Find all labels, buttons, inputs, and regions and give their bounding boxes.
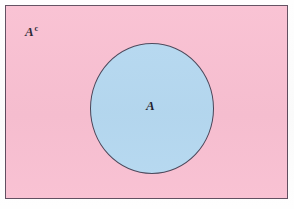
set-a-label: A <box>146 98 155 114</box>
universal-set-rectangle: Ac A <box>5 5 288 199</box>
complement-label-base: A <box>25 24 34 39</box>
complement-label-superscript: c <box>34 24 38 33</box>
complement-label: Ac <box>25 24 38 40</box>
venn-diagram-canvas: Ac A <box>0 0 294 209</box>
